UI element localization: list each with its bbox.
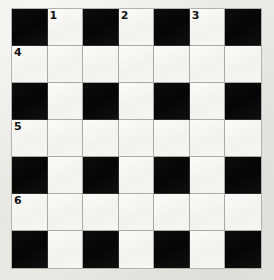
grid-block-cell [12,231,48,268]
grid-open-cell[interactable] [48,231,84,268]
clue-number: 2 [121,9,128,22]
clue-number: 6 [14,194,21,207]
grid-open-cell[interactable]: 3 [190,9,226,46]
grid-open-cell[interactable] [190,120,226,157]
grid-open-cell[interactable] [83,194,119,231]
grid-open-cell[interactable]: 4 [12,46,48,83]
grid-block-cell [225,83,261,120]
grid-open-cell[interactable] [48,83,84,120]
clue-number: 4 [14,46,21,59]
grid-open-cell[interactable] [48,157,84,194]
grid-block-cell [154,9,190,46]
grid-open-cell[interactable] [154,194,190,231]
grid-block-cell [154,231,190,268]
grid-block-cell [12,83,48,120]
grid-block-cell [83,157,119,194]
grid-open-cell[interactable] [48,46,84,83]
grid-block-cell [83,9,119,46]
clue-number: 5 [14,120,21,133]
grid-open-cell[interactable] [190,46,226,83]
grid-open-cell[interactable]: 2 [119,9,155,46]
grid-open-cell[interactable] [83,120,119,157]
grid-open-cell[interactable] [119,83,155,120]
grid-block-cell [83,231,119,268]
grid-open-cell[interactable]: 5 [12,120,48,157]
grid-block-cell [83,83,119,120]
grid-open-cell[interactable] [190,157,226,194]
crossword-grid[interactable]: 123456 [12,9,261,268]
grid-open-cell[interactable] [190,194,226,231]
grid-open-cell[interactable] [119,46,155,83]
grid-block-cell [12,157,48,194]
grid-open-cell[interactable] [119,157,155,194]
grid-block-cell [225,157,261,194]
clue-number: 3 [192,9,199,22]
grid-block-cell [225,9,261,46]
grid-open-cell[interactable] [225,120,261,157]
grid-open-cell[interactable] [119,120,155,157]
clue-number: 1 [50,9,57,22]
grid-open-cell[interactable] [83,46,119,83]
grid-open-cell[interactable] [225,194,261,231]
grid-open-cell[interactable] [154,120,190,157]
grid-block-cell [154,83,190,120]
grid-block-cell [154,157,190,194]
grid-open-cell[interactable]: 1 [48,9,84,46]
grid-open-cell[interactable] [119,231,155,268]
grid-open-cell[interactable]: 6 [12,194,48,231]
grid-block-cell [225,231,261,268]
grid-open-cell[interactable] [154,46,190,83]
grid-open-cell[interactable] [190,83,226,120]
grid-open-cell[interactable] [190,231,226,268]
grid-open-cell[interactable] [225,46,261,83]
grid-block-cell [12,9,48,46]
grid-open-cell[interactable] [48,194,84,231]
grid-open-cell[interactable] [48,120,84,157]
grid-open-cell[interactable] [119,194,155,231]
